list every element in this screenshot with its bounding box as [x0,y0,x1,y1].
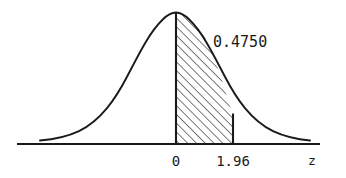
normal-curve-figure: 0.4750 0 1.96 z [0,0,346,178]
figure-canvas: 0.4750 0 1.96 z [0,0,346,178]
tick-label-zero: 0 [172,153,180,169]
shaded-area-hatch [170,5,242,147]
tick-label-critical-value: 1.96 [216,153,250,169]
shaded-area-label: 0.4750 [213,33,267,51]
z-axis-label: z [308,153,316,168]
shaded-area-region [170,5,242,147]
